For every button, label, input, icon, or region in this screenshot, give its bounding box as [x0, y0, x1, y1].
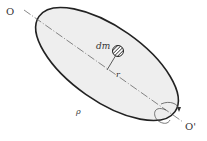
rigid-body-diagram: O O' dm r ρ: [0, 0, 207, 141]
label-axis-O: O: [6, 6, 14, 17]
label-rho: ρ: [75, 107, 81, 116]
rigid-body: [18, 0, 196, 141]
rotation-arrowhead-icon: [177, 107, 181, 112]
label-axis-O-prime: O': [185, 121, 196, 132]
mass-element-dm: [113, 46, 124, 57]
label-dm: dm: [96, 41, 110, 51]
